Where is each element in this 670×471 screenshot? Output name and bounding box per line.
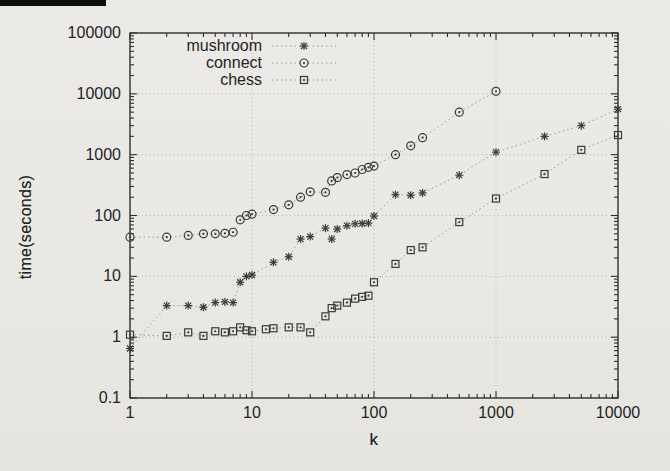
log-log-chart: 1101001000100000.1110100100010000100000m… xyxy=(0,0,670,471)
circle-marker-dot xyxy=(245,214,247,216)
series-line-connect xyxy=(130,91,496,237)
asterisk-marker xyxy=(364,219,372,227)
square-marker-dot xyxy=(543,173,545,175)
circle-marker-dot xyxy=(324,191,326,193)
y-tick-label: 100000 xyxy=(68,24,121,41)
square-marker-dot xyxy=(373,281,375,283)
square-marker-dot xyxy=(187,331,189,333)
square-marker-dot xyxy=(354,298,356,300)
asterisk-marker xyxy=(126,345,134,353)
square-marker-dot xyxy=(224,331,226,333)
circle-marker-dot xyxy=(214,233,216,235)
y-tick-label: 10 xyxy=(103,267,121,284)
asterisk-marker xyxy=(541,132,549,140)
square-marker-dot xyxy=(272,327,274,329)
asterisk-marker xyxy=(577,122,585,130)
y-tick-label: 1000 xyxy=(85,146,121,163)
square-marker-dot xyxy=(324,315,326,317)
asterisk-marker xyxy=(285,253,293,261)
circle-marker-dot xyxy=(239,219,241,221)
circle-marker-dot xyxy=(251,213,253,215)
asterisk-marker xyxy=(269,258,277,266)
square-marker-dot xyxy=(303,79,305,81)
asterisk-marker xyxy=(492,148,500,156)
scanned-figure: 1101001000100000.1110100100010000100000m… xyxy=(0,0,670,471)
circle-marker-dot xyxy=(187,234,189,236)
circle-marker-dot xyxy=(232,231,234,233)
series-mushroom xyxy=(126,105,622,352)
circle-marker-dot xyxy=(309,191,311,193)
y-axis-label: time(seconds) xyxy=(17,127,35,327)
circle-marker-dot xyxy=(299,196,301,198)
asterisk-marker xyxy=(229,299,237,307)
square-marker-dot xyxy=(367,295,369,297)
asterisk-marker xyxy=(211,299,219,307)
circle-marker-dot xyxy=(458,111,460,113)
square-marker-dot xyxy=(421,246,423,248)
circle-marker-dot xyxy=(394,154,396,156)
legend-label-connect: connect xyxy=(206,54,263,71)
square-marker-dot xyxy=(580,149,582,151)
asterisk-marker xyxy=(333,225,341,233)
asterisk-marker xyxy=(455,171,463,179)
asterisk-marker xyxy=(297,235,305,243)
asterisk-marker xyxy=(236,278,244,286)
series-connect xyxy=(126,87,500,241)
asterisk-marker xyxy=(407,191,415,199)
square-marker-dot xyxy=(331,307,333,309)
asterisk-marker xyxy=(370,212,378,220)
asterisk-marker xyxy=(199,303,207,311)
square-marker-dot xyxy=(251,330,253,332)
circle-marker-dot xyxy=(288,204,290,206)
square-marker-dot xyxy=(309,331,311,333)
y-tick-label: 1 xyxy=(112,328,121,345)
x-tick-label: 1000 xyxy=(478,404,514,421)
circle-marker-dot xyxy=(303,62,305,64)
legend-label-mushroom: mushroom xyxy=(186,37,262,54)
circle-marker-dot xyxy=(202,233,204,235)
asterisk-marker xyxy=(343,222,351,230)
asterisk-marker xyxy=(351,220,359,228)
asterisk-marker xyxy=(221,298,229,306)
square-marker-dot xyxy=(202,335,204,337)
asterisk-marker xyxy=(306,233,314,241)
square-marker-dot xyxy=(361,296,363,298)
asterisk-marker xyxy=(328,235,336,243)
square-marker-dot xyxy=(245,329,247,331)
square-marker-dot xyxy=(239,326,241,328)
circle-marker-dot xyxy=(346,174,348,176)
square-marker-dot xyxy=(129,334,131,336)
circle-marker-dot xyxy=(410,145,412,147)
square-marker-dot xyxy=(458,221,460,223)
square-marker-dot xyxy=(166,335,168,337)
circle-marker-dot xyxy=(166,236,168,238)
circle-marker-dot xyxy=(336,176,338,178)
square-marker-dot xyxy=(394,263,396,265)
x-tick-label: 10000 xyxy=(596,404,641,421)
circle-marker-dot xyxy=(361,168,363,170)
circle-marker-dot xyxy=(421,137,423,139)
circle-marker-dot xyxy=(373,165,375,167)
asterisk-marker xyxy=(391,191,399,199)
asterisk-marker xyxy=(300,42,308,50)
x-tick-label: 100 xyxy=(361,404,388,421)
circle-marker-dot xyxy=(367,166,369,168)
asterisk-marker xyxy=(163,302,171,310)
square-marker-dot xyxy=(265,328,267,330)
square-marker-dot xyxy=(214,330,216,332)
circle-marker-dot xyxy=(272,209,274,211)
circle-marker-dot xyxy=(331,180,333,182)
y-tick-label: 0.1 xyxy=(99,389,121,406)
square-marker-dot xyxy=(410,249,412,251)
asterisk-marker xyxy=(419,189,427,197)
y-tick-label: 10000 xyxy=(77,85,122,102)
circle-marker-dot xyxy=(224,232,226,234)
square-marker-dot xyxy=(299,326,301,328)
square-marker-dot xyxy=(617,134,619,136)
asterisk-marker xyxy=(321,224,329,232)
square-marker-dot xyxy=(288,326,290,328)
circle-marker-dot xyxy=(129,236,131,238)
x-tick-label: 1 xyxy=(126,404,135,421)
legend: mushroomconnectchess xyxy=(186,37,336,88)
y-tick-label: 100 xyxy=(94,207,121,224)
